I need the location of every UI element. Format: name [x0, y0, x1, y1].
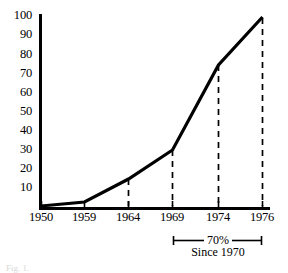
x-tick-label-1976: 1976: [240, 211, 284, 224]
x-tick-label-1974: 1974: [196, 211, 240, 224]
data-line: [41, 17, 263, 206]
x-tick-label-1950: 1950: [19, 211, 63, 224]
x-tick-label-1964: 1964: [106, 211, 150, 224]
x-tick-label-1959: 1959: [62, 211, 106, 224]
figure-caption: Fig. 1.: [6, 264, 29, 273]
x-tick-label-1969: 1969: [150, 211, 194, 224]
annotation-since-label: Since 1970: [178, 246, 258, 259]
